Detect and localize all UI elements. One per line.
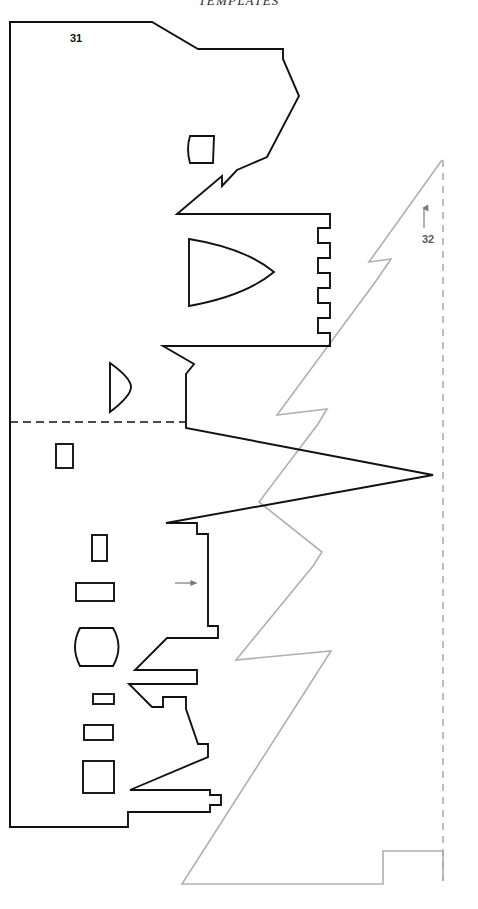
label-31: 31 [70,32,82,44]
template-figure: 31 32 [0,0,478,909]
black-template-outline [10,22,433,827]
label-32: 32 [422,233,434,245]
black-template-group [10,22,433,827]
diagram-page: TEMPLATES [0,0,478,909]
